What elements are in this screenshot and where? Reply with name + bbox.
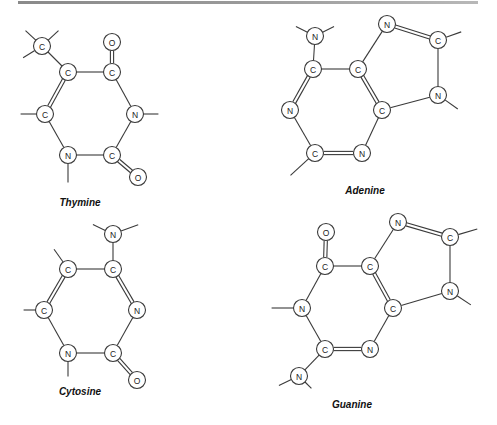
atom-symbol: N [435, 91, 441, 101]
substituent-bond-line [48, 31, 58, 41]
atom-symbol: N [134, 306, 140, 316]
single-bond-line [314, 44, 315, 60]
atom-c-c8: C [442, 229, 459, 246]
atom-c-c2: C [317, 341, 334, 358]
atom-c-c5: C [362, 258, 379, 275]
atom-symbol: N [359, 149, 365, 159]
atom-c-c6: C [37, 106, 54, 123]
atom-n-n9: N [442, 283, 459, 300]
single-bond-line [116, 121, 131, 147]
atom-symbol: C [42, 110, 48, 120]
atom-symbol: C [312, 149, 318, 159]
atom-symbol: N [296, 372, 302, 382]
nucleobase-structures-diagram: CCCONCONC Thymine NCCNCNCNCN Adenine NCC… [0, 0, 497, 425]
atom-symbol: C [355, 65, 361, 75]
atom-symbol: C [65, 68, 71, 78]
single-bond-line [306, 273, 321, 300]
substituent-bond-line [93, 225, 105, 231]
atom-c-c2: C [307, 145, 324, 162]
atom-symbol: N [447, 287, 453, 297]
double-bond-line [327, 241, 328, 258]
double-bond-line [119, 276, 134, 302]
atom-symbol: N [384, 20, 390, 30]
atom-symbol: O [109, 38, 116, 48]
atom-c-c4: C [385, 300, 402, 317]
atom-symbol: N [299, 304, 305, 314]
substituent-bond-line [279, 380, 291, 386]
atom-symbol: O [135, 173, 142, 183]
atom-c-c2: C [104, 147, 121, 164]
double-bond-line [324, 240, 325, 257]
atom-symbol: C [390, 304, 396, 314]
atom-n-n7: N [390, 214, 407, 231]
atom-symbol: O [134, 376, 141, 386]
single-bond-line [390, 97, 430, 108]
atom-symbol: N [287, 106, 293, 116]
atom-symbol: C [110, 349, 116, 359]
atom-symbol: N [395, 218, 401, 228]
substituent-bond-line [458, 229, 477, 235]
atom-n-n7: N [379, 16, 396, 33]
atom-n-n3: N [129, 302, 146, 319]
atom-n-n9: N [430, 87, 447, 104]
atom-symbol: C [109, 151, 115, 161]
single-bond-line [375, 229, 394, 259]
single-bond-line [305, 355, 319, 370]
atom-c-cm: C [34, 38, 51, 55]
double-bond-line [48, 79, 63, 106]
atom-o-o2: O [130, 169, 147, 186]
single-bond-line [306, 315, 321, 341]
substituent-bond-line [305, 382, 311, 388]
atom-c-c4: C [374, 102, 391, 119]
double-bond-line [364, 76, 379, 102]
atom-c-c2: C [105, 345, 122, 362]
double-bond-line [47, 276, 62, 302]
atom-symbol: N [132, 110, 138, 120]
substituent-bond-line [121, 225, 138, 231]
atom-o-o4: O [104, 34, 121, 51]
double-bond-line [373, 274, 388, 301]
double-bond-line [50, 80, 65, 107]
molecule-guanine: OCCNCNCNCNN Guanine [272, 214, 478, 411]
atom-c-c5: C [350, 61, 367, 78]
atom-symbol: C [310, 65, 316, 75]
atom-symbol: C [435, 36, 441, 46]
substituent-bond-line [445, 100, 458, 109]
atom-c-c4: C [105, 261, 122, 278]
double-bond-line [296, 77, 311, 103]
substituent-bond-line [290, 159, 308, 176]
molecule-label-thymine: Thymine [59, 197, 101, 208]
substituent-bond-line [296, 26, 307, 32]
atom-symbol: N [65, 349, 71, 359]
single-bond-line [116, 79, 131, 106]
atom-n-n3: N [354, 145, 371, 162]
atom-layer: NCCCNCON [36, 226, 146, 389]
single-bond-line [49, 121, 64, 147]
atom-c-c4: C [104, 64, 121, 81]
double-bond-line [116, 277, 131, 303]
double-bond-line [361, 77, 376, 103]
atom-symbol: N [65, 151, 71, 161]
single-bond-line [366, 118, 379, 146]
double-bond-line [293, 76, 308, 102]
atom-c-c8: C [430, 32, 447, 49]
atom-symbol: C [447, 233, 453, 243]
atom-c-c5: C [60, 64, 77, 81]
atom-c-c5: C [60, 261, 77, 278]
double-bond-line [375, 273, 390, 300]
atom-n-n6: N [307, 28, 324, 45]
substituent-bond-line [26, 31, 36, 41]
atom-c-c6: C [36, 302, 53, 319]
atom-symbol: C [379, 106, 385, 116]
atom-layer: NCCNCNCNCN [282, 16, 447, 162]
molecule-label-adenine: Adenine [344, 185, 385, 196]
double-bond-line [50, 277, 65, 303]
atom-symbol: N [312, 32, 318, 42]
molecule-thymine: CCCONCONC Thymine [21, 31, 159, 208]
atom-n-n1: N [294, 300, 311, 317]
atom-n-n3: N [127, 106, 144, 123]
atom-symbol: C [322, 262, 328, 272]
single-bond-line [294, 117, 310, 145]
single-bond-line [117, 317, 133, 345]
single-bond-line [374, 315, 389, 341]
